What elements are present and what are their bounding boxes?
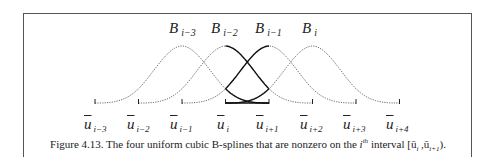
label-b-i-2: Bi−2 bbox=[211, 20, 238, 37]
figure-caption: Figure 4.13. The four uniform cubic B-sp… bbox=[0, 137, 496, 153]
knot-label-u-i+2: ui+2 bbox=[300, 116, 323, 133]
knot-label-u-i+3: ui+3 bbox=[343, 116, 366, 133]
label-b-i-1: Bi−1 bbox=[255, 20, 282, 37]
knot-label-u-i-1: ui−1 bbox=[170, 116, 193, 133]
knot-label-u-i+4: ui+4 bbox=[386, 116, 409, 133]
knot-label-u-i+1: ui+1 bbox=[256, 116, 279, 133]
bspline-curve-dotted bbox=[95, 46, 269, 103]
bspline-curve-dotted bbox=[226, 46, 400, 103]
bspline-curve-dotted bbox=[139, 46, 313, 103]
bspline-curve-active-segment bbox=[226, 89, 270, 103]
label-b-i-3: Bi−3 bbox=[169, 20, 196, 37]
knot-label-u-i: ui bbox=[217, 116, 229, 133]
bspline-diagram bbox=[0, 0, 496, 157]
bspline-curve-dotted bbox=[182, 46, 356, 103]
knot-label-u-i-2: ui−2 bbox=[127, 116, 150, 133]
label-b-i: Bi bbox=[302, 20, 317, 37]
knot-label-u-i-3: ui−3 bbox=[84, 116, 107, 133]
